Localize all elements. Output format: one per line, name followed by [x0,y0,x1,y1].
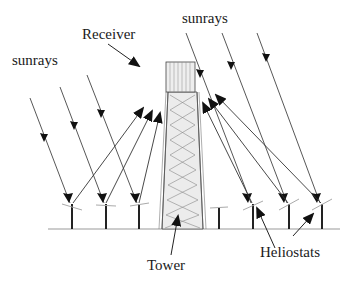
incoming-sunrays-left [30,75,137,203]
reflected-rays-right [203,95,321,203]
heliostat-pointer-1 [257,208,275,248]
heliostat [312,199,332,229]
receiver [166,62,195,92]
heliostat-pointer-2 [293,214,313,236]
tower-label: Tower [147,258,185,273]
receiver-pointer [108,44,139,66]
incoming-sunrays-right [186,33,320,203]
sunrays-left-label: sunrays [12,53,58,68]
tower [159,92,206,229]
heliostat [210,207,228,229]
heliostat [279,199,299,229]
heliostat [62,204,82,229]
sunrays-right-label: sunrays [182,11,228,26]
heliostats-label: Heliostats [260,245,320,260]
heliostat [130,203,149,229]
receiver-label: Receiver [82,27,135,42]
heliostat [96,204,116,229]
